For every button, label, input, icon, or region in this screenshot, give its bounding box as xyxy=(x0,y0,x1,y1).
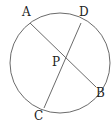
label-c: C xyxy=(34,109,43,123)
intersecting-chords-diagram: A D B C P xyxy=(0,0,112,124)
label-b: B xyxy=(96,86,105,100)
label-p: P xyxy=(52,55,60,69)
label-d: D xyxy=(79,5,89,19)
chord-ab xyxy=(30,23,96,87)
chord-dc xyxy=(44,23,81,108)
label-a: A xyxy=(21,5,31,19)
